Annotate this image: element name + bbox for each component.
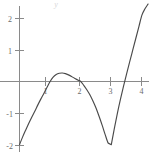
y-tick-label-2: 2 [8,15,12,24]
y-tick-label-neg1: -1 [6,110,13,119]
y-tick-label-1: 1 [8,47,12,56]
x-tick-label-2: 2 [78,87,82,96]
plot-canvas: 2 1 -1 -2 1 2 3 4 y [0,0,149,152]
x-tick-label-4: 4 [140,87,144,96]
chart-figure: 2 1 -1 -2 1 2 3 4 y [0,0,149,152]
y-axis-label: y [53,0,58,9]
x-tick-label-3: 3 [109,87,113,96]
y-tick-label-neg2: -2 [6,142,13,151]
function-curve [20,4,149,145]
